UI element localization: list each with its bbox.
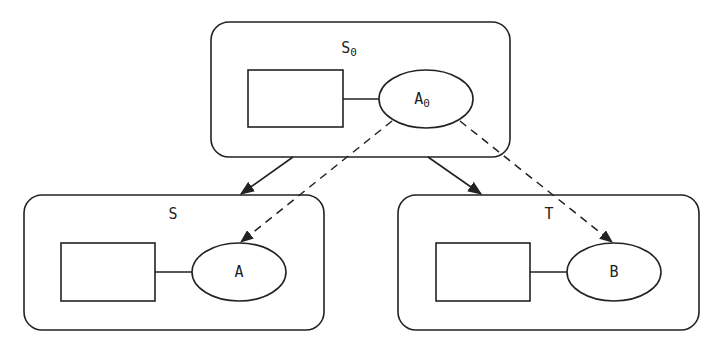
edge-a0-to-b (460, 121, 612, 242)
node-s-rect (61, 243, 155, 301)
node-a-label: A (234, 263, 243, 281)
edge-s0-to-t (428, 157, 481, 194)
node-s0-rect (248, 70, 343, 127)
edge-s0-to-s (241, 157, 293, 194)
node-t: T B (398, 195, 699, 330)
node-s: S A (24, 195, 324, 330)
diagram-canvas: S0 A0 S A T B (0, 0, 718, 351)
node-t-label: T (544, 205, 553, 223)
node-s-label: S (168, 205, 177, 223)
node-b-label: B (609, 263, 618, 281)
edge-a0-to-a (241, 121, 392, 242)
node-t-rect (436, 243, 530, 301)
node-s0: S0 A0 (211, 22, 510, 157)
node-s0-label: S0 (341, 39, 357, 59)
node-a0-label: A0 (414, 90, 430, 110)
